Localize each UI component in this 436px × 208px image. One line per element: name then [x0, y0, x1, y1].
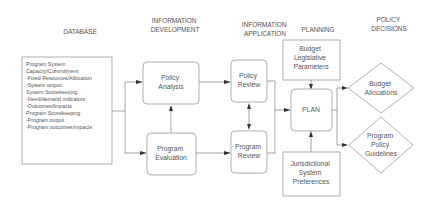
heading-planning: PLANNING — [302, 26, 335, 33]
connector-database-to-development — [112, 80, 147, 155]
flow-diagram: DATABASE INFORMATION DEVELOPMENT INFORMA… — [0, 0, 436, 208]
plan-label: PLAN — [302, 106, 320, 113]
connector-review-bidirectional — [247, 103, 251, 130]
connector-jurisdictional-to-plan — [309, 131, 313, 152]
heading-policy-decisions: POLICY DECISIONS — [371, 16, 407, 32]
heading-database: DATABASE — [63, 28, 97, 35]
budget-allocations-diamond — [348, 63, 414, 113]
connector-evaluation-to-analysis — [169, 105, 173, 133]
policy-analysis-label: Policy Analysis — [158, 74, 184, 91]
heading-information-application: INFORMATION APPLICATION — [242, 21, 288, 37]
connector-plan-to-decisions — [332, 86, 348, 147]
connector-development-to-application — [196, 80, 231, 155]
connector-reviews-to-plan — [267, 81, 291, 153]
heading-information-development: INFORMATION DEVELOPMENT — [151, 17, 200, 33]
connector-budget-to-plan — [309, 80, 313, 90]
